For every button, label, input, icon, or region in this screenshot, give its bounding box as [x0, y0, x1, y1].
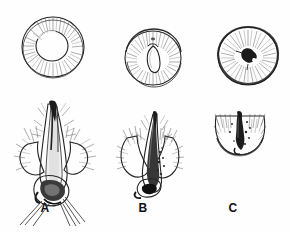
- surface-view-a: [14, 8, 92, 88]
- follicle-opening-b: [125, 29, 181, 87]
- follicle-section-c: [214, 111, 266, 156]
- panel-label-c: C: [225, 202, 241, 214]
- panel-label-a: A: [37, 202, 53, 214]
- section-view-c: [211, 110, 269, 162]
- surface-view-c: [212, 20, 286, 94]
- follicle-section-a: [14, 101, 96, 226]
- section-view-a: [8, 98, 104, 226]
- figure-illustration: A B C: [0, 0, 290, 232]
- section-view-b: [115, 108, 185, 200]
- panel-label-b: B: [135, 202, 151, 214]
- follicle-opening-c: [218, 27, 278, 85]
- follicle-opening-a: [22, 17, 84, 78]
- follicle-section-b: [116, 111, 184, 198]
- surface-view-b: [118, 22, 190, 96]
